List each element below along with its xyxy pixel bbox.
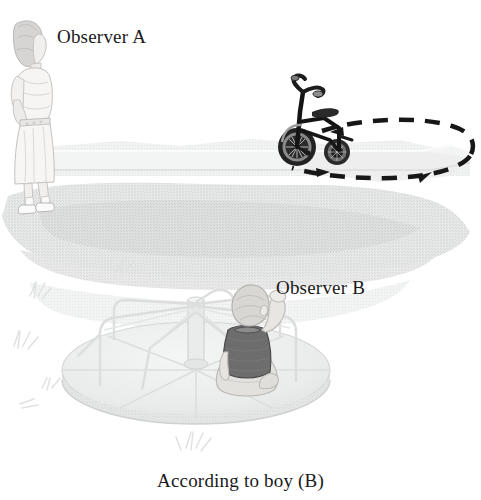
figure-caption: According to boy (B) — [0, 470, 481, 492]
physics-figure-scene: Observer A Observer B According to boy (… — [0, 0, 481, 500]
scene-artwork — [0, 0, 481, 500]
label-observer-a: Observer A — [57, 26, 146, 48]
label-observer-b: Observer B — [276, 277, 365, 299]
woman-observer-a — [11, 21, 54, 214]
raised-path — [36, 145, 470, 182]
tricycle — [278, 75, 352, 166]
